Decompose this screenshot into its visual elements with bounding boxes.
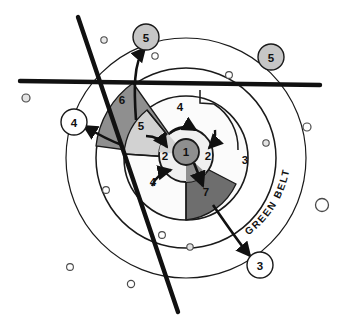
zone-label-2-left: 2 <box>162 150 168 162</box>
zone-label-7: 7 <box>203 186 209 198</box>
settlement-dot <box>303 123 311 131</box>
settlement-dot <box>101 37 107 43</box>
zone-label-6: 6 <box>119 94 125 106</box>
callout-4-left-label: 4 <box>71 117 78 129</box>
settlement-dot <box>22 94 30 102</box>
callout-4-left[interactable]: 4 <box>61 109 87 135</box>
diagram-canvas: GREEN BELT 1 2 2 3 4 4 5 6 7 5 5 4 3 <box>0 0 346 325</box>
settlement-dot <box>159 232 166 239</box>
settlement-dot <box>316 199 329 212</box>
callout-3-bottom[interactable]: 3 <box>247 252 273 278</box>
callout-5-top[interactable]: 5 <box>133 24 159 50</box>
zone-label-1: 1 <box>183 146 190 158</box>
settlement-dot <box>103 187 110 194</box>
zone-label-4-bottom: 4 <box>150 176 157 188</box>
zone-label-4-top: 4 <box>177 101 184 113</box>
settlement-dot <box>263 140 269 146</box>
settlement-dot <box>67 264 74 271</box>
callout-3-bottom-label: 3 <box>257 260 263 272</box>
zone-label-2-right: 2 <box>205 150 211 162</box>
callout-5-right[interactable]: 5 <box>258 44 284 70</box>
callout-5-top-label: 5 <box>143 32 150 44</box>
zone-label-5: 5 <box>138 120 145 132</box>
zone-label-3: 3 <box>242 154 248 166</box>
settlement-dot <box>127 280 134 287</box>
settlement-dot <box>152 53 158 59</box>
settlement-dot <box>226 72 233 79</box>
settlement-dot <box>187 244 193 250</box>
concentric-zone-svg: GREEN BELT 1 2 2 3 4 4 5 6 7 5 5 4 3 <box>0 0 346 325</box>
callout-5-right-label: 5 <box>268 52 275 64</box>
